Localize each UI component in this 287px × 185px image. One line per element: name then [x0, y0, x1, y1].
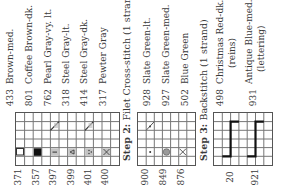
floss-name: Brown-med.	[3, 29, 17, 84]
step2-heading: Step 2: Filet Cross-stitch (1 strand)	[121, 0, 132, 161]
grid-label: 20	[225, 163, 235, 185]
floss-number: 317	[96, 89, 110, 107]
grid-label: 357	[31, 163, 41, 185]
grid-label: 921	[250, 163, 260, 185]
grid-label: 876	[176, 163, 186, 185]
cross-stitch-color-key: 433 Brown-med. 801 Coffee Brown-dk. 762 …	[0, 0, 287, 185]
floss-number: 433	[3, 89, 17, 107]
step3-title: Backstitch (1 strand)	[198, 19, 209, 123]
floss-note: (reins)	[226, 38, 238, 68]
step3-heading: Step 3: Backstitch (1 strand)	[198, 19, 209, 161]
floss-name: Blue Green	[178, 33, 192, 84]
step2-symbol-grid	[137, 112, 196, 166]
floss-name: Slate Green-med.	[159, 4, 173, 84]
dot-symbol	[149, 151, 151, 153]
grid-label: 400	[100, 163, 110, 185]
grid-lines	[16, 113, 119, 165]
floss-number: 414	[77, 89, 91, 107]
floss-name: Christmas Red-dk.	[214, 0, 226, 84]
floss-number: 931	[246, 89, 260, 107]
floss-number: 801	[22, 89, 36, 107]
floss-name: Antique Blue-med.	[243, 0, 255, 84]
floss-number: 498	[213, 89, 227, 107]
floss-name: Coffee Brown-dk.	[22, 5, 36, 84]
floss-note: (lettering)	[255, 25, 267, 72]
floss-number: 927	[159, 89, 173, 107]
gray-circle-symbol	[163, 149, 170, 156]
white-square-symbol	[17, 149, 24, 156]
grid-label: 397	[48, 163, 58, 185]
step2-label: Step 2:	[121, 124, 132, 161]
floss-name: Pewter Gray	[96, 27, 110, 84]
grid-lines	[138, 113, 195, 165]
floss-name: Steel Gray-dk.	[77, 19, 91, 84]
step3-backstitch-grid	[213, 112, 273, 166]
floss-name: Pearl Gray-vy. lt.	[41, 9, 55, 84]
grid-label: 401	[83, 163, 93, 185]
step1-symbol-grid	[15, 112, 120, 166]
floss-number: 502	[178, 89, 192, 107]
grid-label: 900	[140, 163, 150, 185]
floss-number: 762	[41, 89, 55, 107]
floss-name: Slate Green-lt.	[140, 17, 154, 84]
black-square-symbol	[34, 148, 41, 156]
floss-number: 318	[59, 89, 73, 107]
grid-label: 399	[66, 163, 76, 185]
grid-label: 371	[13, 163, 23, 185]
floss-number: 928	[140, 89, 154, 107]
step2-title: Filet Cross-stitch (1 strand)	[121, 0, 132, 124]
grid-label: 849	[158, 163, 168, 185]
step3-label: Step 3:	[198, 124, 209, 161]
grid-lines	[214, 113, 272, 165]
floss-name: Steel Gray-lt.	[59, 23, 73, 84]
